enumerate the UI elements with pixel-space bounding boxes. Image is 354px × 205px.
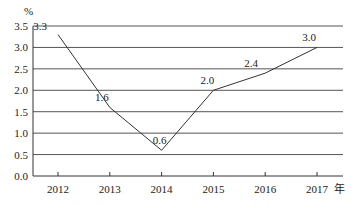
y-tick-label: 1.0	[14, 127, 28, 139]
x-tick-label: 2012	[47, 183, 69, 195]
data-point-label: 0.6	[153, 134, 167, 146]
y-tick-label: 2.5	[14, 63, 28, 75]
y-axis-ticks: 0.00.51.01.52.02.53.03.5	[14, 20, 28, 182]
data-point-label: 3.3	[33, 20, 47, 32]
data-point-label: 1.6	[95, 91, 109, 103]
y-tick-label: 3.0	[14, 41, 28, 53]
line-chart: 0.00.51.01.52.02.53.03.5 201220132014201…	[0, 0, 354, 205]
y-tick-label: 1.5	[14, 106, 28, 118]
y-axis-unit-label: %	[24, 5, 33, 17]
x-tick-label: 2016	[254, 183, 277, 195]
x-tick-label: 2013	[99, 183, 122, 195]
x-tick-label: 2017	[306, 183, 329, 195]
axes	[33, 26, 343, 176]
x-axis-unit-label: 年	[334, 182, 345, 195]
grid-lines	[33, 26, 343, 155]
data-labels: 3.31.60.62.02.43.0	[33, 20, 316, 147]
x-axis-ticks: 201220132014201520162017	[47, 172, 329, 195]
y-tick-label: 0.5	[14, 149, 28, 161]
data-point-label: 2.4	[244, 57, 258, 69]
data-point-label: 3.0	[302, 31, 316, 43]
y-tick-label: 2.0	[14, 84, 28, 96]
y-tick-label: 3.5	[14, 20, 28, 32]
data-point-label: 2.0	[201, 74, 215, 86]
x-tick-label: 2015	[202, 183, 225, 195]
x-tick-label: 2014	[151, 183, 174, 195]
y-tick-label: 0.0	[14, 170, 28, 182]
